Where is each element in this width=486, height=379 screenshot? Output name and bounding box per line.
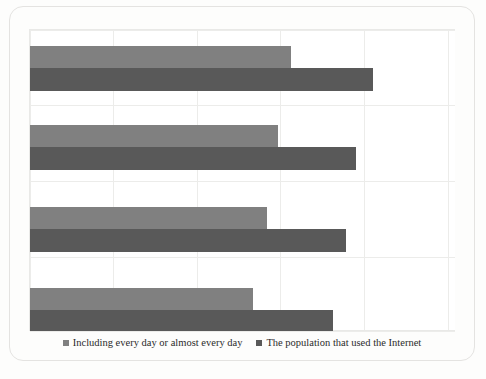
chart-legend: Including every day or almost every day … xyxy=(29,334,455,352)
bar-group-2-series-1 xyxy=(30,229,346,252)
legend-swatch-icon-series-1 xyxy=(256,340,262,346)
legend-label-series-1: The population that used the Internet xyxy=(266,338,421,349)
scanned-page: Including every day or almost every day … xyxy=(0,0,486,379)
legend-swatch-icon-series-0 xyxy=(63,340,69,346)
bar-group-2-series-0 xyxy=(30,207,267,229)
bar-group-0-series-0 xyxy=(30,46,291,68)
bar-chart: Including every day or almost every day … xyxy=(22,26,462,352)
bar-group-1-series-1 xyxy=(30,147,356,170)
legend-label-series-0: Including every day or almost every day xyxy=(73,338,243,349)
gridline-horizontal-0 xyxy=(30,30,455,31)
gridline-horizontal-2 xyxy=(30,181,455,182)
gridline-horizontal-1 xyxy=(30,105,455,106)
bar-group-0-series-1 xyxy=(30,68,373,91)
gridline-vertical-5 xyxy=(448,30,449,330)
gridline-horizontal-3 xyxy=(30,257,455,258)
legend-entry-0[interactable]: Including every day or almost every day xyxy=(63,338,243,349)
gridline-horizontal-4 xyxy=(30,331,455,332)
bar-group-3-series-1 xyxy=(30,310,333,331)
bar-group-3-series-0 xyxy=(30,288,253,310)
plot-area xyxy=(29,29,455,331)
bar-group-1-series-0 xyxy=(30,125,278,147)
legend-entry-1[interactable]: The population that used the Internet xyxy=(256,338,421,349)
